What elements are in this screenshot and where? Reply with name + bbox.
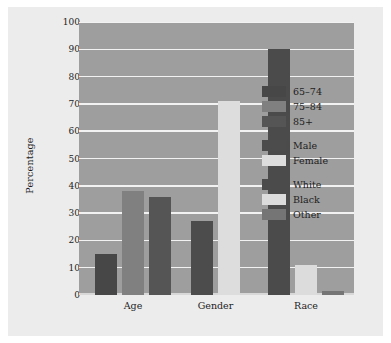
legend-item-label: 85+ bbox=[293, 116, 313, 127]
legend-item-label: Other bbox=[293, 209, 321, 220]
legend-item[interactable]: 65–74 bbox=[262, 84, 328, 99]
y-axis-label-text: Percentage bbox=[24, 137, 35, 193]
legend-item[interactable]: 75–84 bbox=[262, 99, 328, 114]
legend-item[interactable]: Black bbox=[262, 192, 328, 207]
legend-swatch-icon bbox=[262, 86, 286, 97]
legend-swatch-icon bbox=[262, 155, 286, 166]
legend-item[interactable]: 85+ bbox=[262, 114, 328, 129]
legend-swatch-icon bbox=[262, 140, 286, 151]
gridline bbox=[79, 76, 354, 78]
legend-item[interactable]: Female bbox=[262, 153, 328, 168]
legend-item-label: White bbox=[293, 179, 321, 190]
bar-65-74 bbox=[95, 254, 117, 295]
x-axis-tick-label: Race bbox=[294, 300, 318, 311]
chart-figure: Percentage 0102030405060708090100 AgeGen… bbox=[0, 0, 391, 343]
legend-item-label: 65–74 bbox=[293, 86, 322, 97]
legend-item-label: Female bbox=[293, 155, 328, 166]
gridline bbox=[79, 240, 354, 242]
legend-item[interactable]: Other bbox=[262, 207, 328, 222]
legend-item-label: Black bbox=[293, 194, 320, 205]
legend-swatch-icon bbox=[262, 116, 286, 127]
legend-swatch-icon bbox=[262, 194, 286, 205]
bar-other bbox=[322, 291, 344, 295]
legend-swatch-icon bbox=[262, 209, 286, 220]
bar-female bbox=[218, 101, 240, 295]
legend-item[interactable]: Male bbox=[262, 138, 328, 153]
legend-swatch-icon bbox=[262, 101, 286, 112]
bar-75-84 bbox=[122, 191, 144, 295]
y-axis-label: Percentage bbox=[21, 110, 37, 220]
legend-swatch-icon bbox=[262, 179, 286, 190]
bar-male bbox=[191, 221, 213, 295]
bar-85 bbox=[149, 197, 171, 295]
gridline bbox=[79, 22, 354, 23]
legend-item-label: 75–84 bbox=[293, 101, 322, 112]
bar-black bbox=[295, 265, 317, 295]
legend-item[interactable]: White bbox=[262, 177, 328, 192]
legend-item-label: Male bbox=[293, 140, 317, 151]
gridline bbox=[79, 49, 354, 51]
x-axis-tick-label: Gender bbox=[198, 300, 234, 311]
x-axis-tick-label: Age bbox=[124, 300, 143, 311]
chart-legend: 65–7475–8485+MaleFemaleWhiteBlackOther bbox=[262, 84, 328, 222]
